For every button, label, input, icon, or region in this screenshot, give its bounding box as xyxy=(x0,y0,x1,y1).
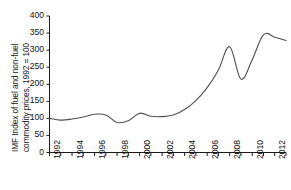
data-line-series xyxy=(50,33,287,123)
axes xyxy=(50,16,287,153)
plot-area xyxy=(0,0,291,190)
x-axis-tick-marks xyxy=(50,153,287,157)
chart-container: IMF Index of fuel and non-fuel commodity… xyxy=(0,0,291,190)
